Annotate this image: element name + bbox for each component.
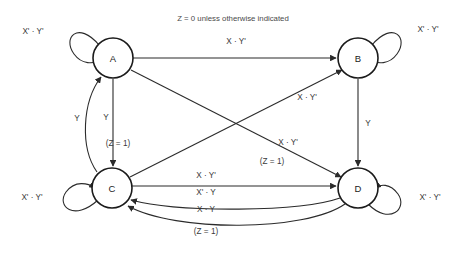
edge-d-to-c-upper [131, 198, 340, 209]
state-node-b-label: B [355, 53, 361, 64]
state-node-d-label: D [355, 183, 362, 194]
self-loop-d-label: X' · Y' [419, 193, 441, 202]
edge-a-to-c-output: (Z = 1) [106, 139, 131, 148]
state-transition-diagram: Z = 0 unless otherwise indicated X' · Y'… [0, 0, 469, 257]
edge-c-to-b-label: X · Y' [297, 93, 317, 102]
edge-b-to-d-label: Y [365, 119, 371, 128]
edge-c-to-d-label: X · Y' [196, 171, 216, 180]
self-loop-a-label: X' · Y' [22, 27, 44, 36]
diagram-caption: Z = 0 unless otherwise indicated [177, 14, 289, 23]
state-diagram-container: Z = 0 unless otherwise indicated X' · Y'… [0, 0, 469, 257]
state-node-c-label: C [109, 183, 116, 194]
edge-d-to-c-lower-label: X · Y [197, 205, 216, 214]
edge-a-to-d-output: (Z = 1) [260, 157, 285, 166]
edge-d-to-c-lower-output: (Z = 1) [194, 227, 219, 236]
self-loop-c-label: X' · Y' [21, 193, 43, 202]
edge-a-to-b-label: X · Y' [226, 37, 246, 46]
self-loop-b-label: X' · Y' [417, 25, 439, 34]
edge-d-to-c-lower [128, 204, 345, 225]
state-node-a-label: A [110, 53, 117, 64]
edge-d-to-c-upper-label: X' · Y [196, 188, 216, 197]
edge-a-to-c-label: Y [103, 113, 109, 122]
edge-a-to-d-label: X · Y' [278, 138, 298, 147]
edge-c-to-a [85, 77, 101, 172]
edge-c-to-a-label: Y [74, 114, 80, 123]
